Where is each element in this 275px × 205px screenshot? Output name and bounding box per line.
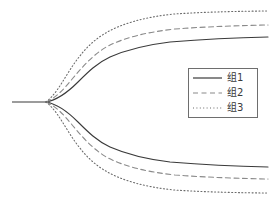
chart-legend: 组1 组2 组3 <box>188 68 258 118</box>
chart-figure: 组1 组2 组3 <box>0 0 275 205</box>
legend-label-group2: 组2 <box>227 87 243 99</box>
legend-sample-dotted-icon <box>192 102 223 114</box>
legend-sample-solid-icon <box>192 72 223 84</box>
legend-rows: 组1 组2 组3 <box>189 69 257 117</box>
legend-sample-dashed-icon <box>192 87 223 99</box>
legend-entry-group3: 组3 <box>189 101 257 115</box>
legend-label-group3: 组3 <box>227 102 243 114</box>
legend-label-group1: 组1 <box>227 72 243 84</box>
legend-entry-group1: 组1 <box>189 71 257 85</box>
legend-entry-group2: 组2 <box>189 86 257 100</box>
